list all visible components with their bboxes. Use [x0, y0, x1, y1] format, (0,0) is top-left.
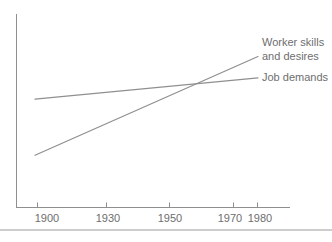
x-tick-label: 1950: [158, 212, 182, 224]
page-divider-rule: [0, 229, 332, 231]
line-chart: 19001930195019701980Worker skillsand des…: [0, 0, 332, 242]
series-label: Worker skills: [262, 36, 325, 48]
chart-figure: 19001930195019701980Worker skillsand des…: [0, 0, 332, 242]
x-tick-label: 1980: [248, 212, 272, 224]
series-label: Job demands: [262, 71, 329, 83]
series-line-worker-skills-and-desires: [35, 57, 258, 156]
x-tick-label: 1900: [35, 212, 59, 224]
series-label: and desires: [262, 50, 319, 62]
x-tick-label: 1930: [96, 212, 120, 224]
series-line-job-demands: [35, 78, 258, 99]
x-tick-label: 1970: [218, 212, 242, 224]
